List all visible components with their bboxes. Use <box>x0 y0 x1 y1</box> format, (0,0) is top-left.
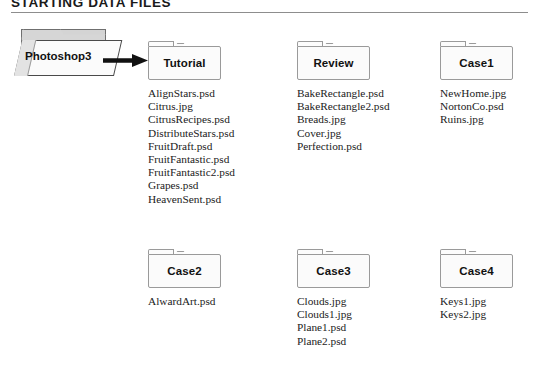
folder-body-icon: Review <box>297 46 370 80</box>
file-item: FruitFantastic.psd <box>148 153 235 166</box>
folder-body-icon: Case3 <box>297 254 370 288</box>
folder-label: Case3 <box>316 265 350 277</box>
folder-body-icon: Case4 <box>440 254 513 288</box>
file-list-case2: AlwardArt.psd <box>148 295 215 308</box>
folder-body-icon: Tutorial <box>148 46 221 80</box>
folder-case3[interactable]: Case3 <box>297 249 370 288</box>
folder-case1[interactable]: Case1 <box>440 41 513 80</box>
file-item: FruitDraft.psd <box>148 140 235 153</box>
page-title: STARTING DATA FILES <box>11 0 171 10</box>
file-item: Grapes.psd <box>148 179 235 192</box>
file-item: Clouds.jpg <box>297 295 352 308</box>
file-item: Citrus.jpg <box>148 100 235 113</box>
file-item: Ruins.jpg <box>440 113 506 126</box>
file-item: NortonCo.psd <box>440 100 506 113</box>
file-item: Cover.jpg <box>297 127 390 140</box>
folder-case2[interactable]: Case2 <box>148 249 221 288</box>
file-item: Perfection.psd <box>297 140 390 153</box>
file-item: FruitFantastic2.psd <box>148 166 235 179</box>
file-item: Keys1.jpg <box>440 295 486 308</box>
folder-body-icon: Case2 <box>148 254 221 288</box>
folder-label: Case1 <box>459 57 493 69</box>
file-item: BakeRectangle2.psd <box>297 100 390 113</box>
folder-tutorial[interactable]: Tutorial <box>148 41 221 80</box>
file-item: Plane1.psd <box>297 321 352 334</box>
folder-label: Review <box>313 57 353 69</box>
file-item: Keys2.jpg <box>440 308 486 321</box>
file-list-case1: NewHome.jpg NortonCo.psd Ruins.jpg <box>440 87 506 127</box>
right-arrow-icon <box>103 53 149 68</box>
file-item: Clouds1.jpg <box>297 308 352 321</box>
folder-review[interactable]: Review <box>297 41 370 80</box>
folder-label: Case4 <box>459 265 493 277</box>
file-item: AlignStars.psd <box>148 87 235 100</box>
folder-label: Tutorial <box>163 57 205 69</box>
file-item: AlwardArt.psd <box>148 295 215 308</box>
file-list-review: BakeRectangle.psd BakeRectangle2.psd Bre… <box>297 87 390 153</box>
file-item: DistributeStars.psd <box>148 127 235 140</box>
header-divider <box>11 12 528 13</box>
file-list-case3: Clouds.jpg Clouds1.jpg Plane1.psd Plane2… <box>297 295 352 348</box>
file-item: Plane2.psd <box>297 335 352 348</box>
file-item: NewHome.jpg <box>440 87 506 100</box>
file-list-case4: Keys1.jpg Keys2.jpg <box>440 295 486 321</box>
file-item: BakeRectangle.psd <box>297 87 390 100</box>
file-item: CitrusRecipes.psd <box>148 113 235 126</box>
file-item: HeavenSent.psd <box>148 193 235 206</box>
file-list-tutorial: AlignStars.psd Citrus.jpg CitrusRecipes.… <box>148 87 235 206</box>
folder-case4[interactable]: Case4 <box>440 249 513 288</box>
source-folder-label: Photoshop3 <box>25 50 91 62</box>
folder-body-icon: Case1 <box>440 46 513 80</box>
file-item: Breads.jpg <box>297 113 390 126</box>
folder-label: Case2 <box>167 265 201 277</box>
